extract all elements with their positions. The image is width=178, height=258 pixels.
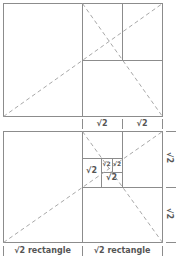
inner-label-small-1: √2	[101, 160, 112, 167]
top-label-sqrt2-1: √2	[82, 119, 122, 128]
bottom-label-rectangle-2: √2 rectangle	[82, 246, 162, 255]
inner-label-small-2: √2	[112, 160, 122, 167]
top-label-sqrt2-2: √2	[122, 119, 162, 128]
bottom-label-rectangle-1: √2 rectangle	[3, 246, 82, 255]
side-label-sqrt2-1: √2	[165, 152, 174, 163]
inner-label-medium: √2	[101, 173, 122, 182]
root-rectangle-diagram	[0, 0, 178, 258]
inner-label-large: √2	[82, 166, 101, 175]
side-label-sqrt2-2: √2	[165, 208, 174, 219]
right-dimension-ticks	[166, 132, 176, 243]
